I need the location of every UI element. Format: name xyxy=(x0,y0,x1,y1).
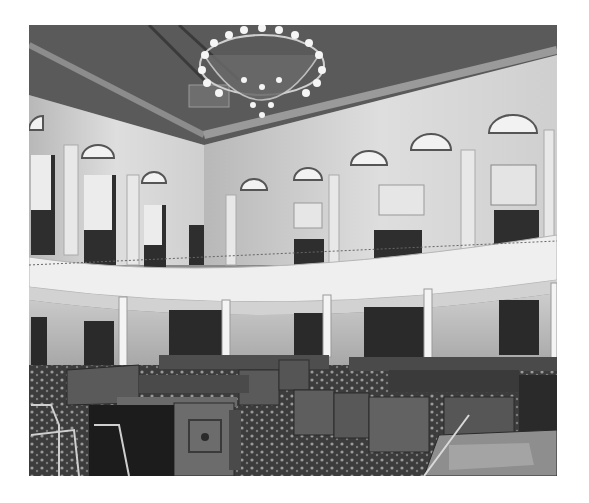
chamber-photograph xyxy=(29,25,557,476)
rostrum xyxy=(67,365,249,476)
chamber-illustration xyxy=(29,25,557,476)
